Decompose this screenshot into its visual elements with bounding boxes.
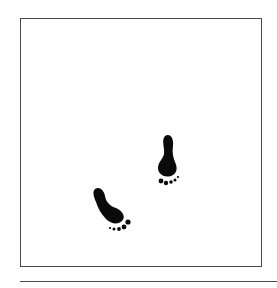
bottom-divider — [20, 281, 277, 282]
footprint-icon — [158, 135, 179, 185]
footprint-icon — [93, 188, 130, 231]
footprints-illustration — [0, 0, 277, 288]
